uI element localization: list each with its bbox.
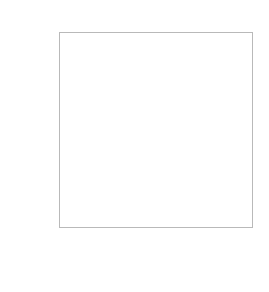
plot-canvas: [60, 33, 252, 227]
y-axis-tick-labels: [30, 32, 55, 228]
plot-area: [59, 32, 253, 228]
x-axis-tick-labels: [59, 233, 253, 247]
normal-probability-plot-figure: [0, 0, 269, 292]
